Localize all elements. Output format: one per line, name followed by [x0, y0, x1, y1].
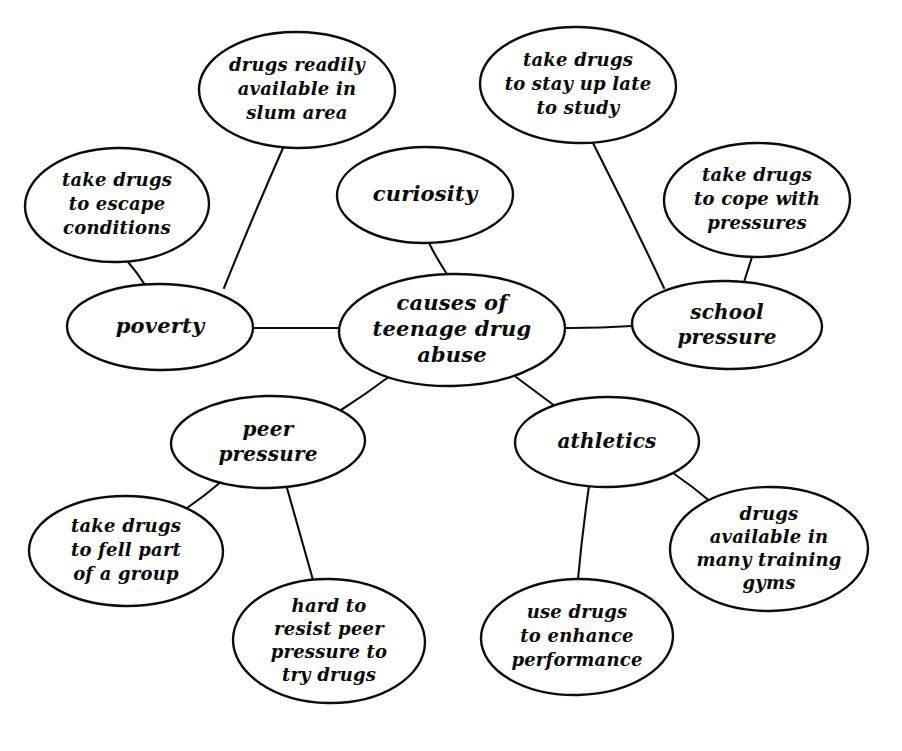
node-label-line: to escape [69, 193, 166, 214]
node-label-line: pressure to [271, 641, 388, 662]
node-label-line: slum area [245, 102, 347, 123]
node-label-line: drugs readily [229, 54, 366, 75]
node-label-line: causes of [397, 290, 512, 315]
node-label-line: to stay up late [505, 73, 652, 94]
node-label-line: conditions [63, 217, 171, 238]
node-label-curiosity: curiosity [373, 181, 479, 206]
node-drugs-available-in-many-training-gyms[interactable]: drugsavailable inmany traininggyms [670, 486, 869, 611]
node-label-school-pressure: schoolpressure [677, 299, 776, 348]
node-label-line: poverty [116, 313, 206, 338]
node-label-line: take drugs [71, 515, 181, 536]
node-label-line: resist peer [274, 618, 385, 639]
node-take-drugs-to-fell-part-of-a-group[interactable]: take drugsto fell partof a group [29, 495, 224, 606]
node-label-line: teenage drug [373, 316, 532, 341]
node-label-take-drugs-to-fell-part-of-a-group: take drugsto fell partof a group [71, 515, 182, 584]
node-label-line: of a group [73, 563, 179, 584]
node-label-line: to fell part [71, 539, 182, 560]
node-label-take-drugs-to-escape-conditions: take drugsto escapeconditions [62, 169, 172, 238]
node-label-athletics: athletics [557, 429, 656, 453]
node-label-take-drugs-to-cope-with-pressures: take drugsto cope withpressures [694, 164, 820, 233]
node-label-line: pressures [707, 212, 807, 233]
node-label-line: drugs [740, 503, 799, 524]
node-label-line: hard to [292, 595, 367, 616]
concept-map-diagram: causes ofteenage drugabusecuriositypover… [0, 0, 902, 751]
node-label-line: pressure [218, 441, 317, 465]
node-poverty[interactable]: poverty [67, 283, 254, 370]
node-label-line: gyms [742, 572, 795, 593]
node-label-line: many training [696, 549, 841, 570]
node-label-line: school [689, 299, 764, 323]
node-label-line: available in [710, 526, 829, 547]
node-athletics[interactable]: athletics [515, 396, 700, 487]
node-take-drugs-to-cope-with-pressures[interactable]: take drugsto cope withpressures [664, 142, 851, 257]
node-curiosity[interactable]: curiosity [337, 146, 514, 243]
node-label-line: try drugs [282, 664, 376, 685]
node-label-line: athletics [557, 429, 656, 453]
node-label-line: take drugs [62, 169, 172, 190]
node-label-line: performance [511, 649, 642, 670]
node-label-line: to study [537, 97, 621, 118]
node-label-line: curiosity [373, 181, 479, 206]
node-label-line: to enhance [520, 625, 633, 646]
node-label-line: use drugs [527, 601, 628, 622]
concept-map-canvas: causes ofteenage drugabusecuriositypover… [0, 0, 902, 751]
node-label-line: take drugs [523, 49, 633, 70]
node-label-drugs-readily-available-in-slum-area: drugs readilyavailable inslum area [229, 54, 366, 123]
node-label-line: available in [238, 78, 357, 99]
node-label-poverty: poverty [116, 313, 206, 338]
node-drugs-readily-available-in-slum-area[interactable]: drugs readilyavailable inslum area [199, 31, 396, 148]
node-label-line: take drugs [702, 164, 812, 185]
node-label-use-drugs-to-enhance-performance: use drugsto enhanceperformance [511, 601, 642, 670]
node-label-line: to cope with [694, 188, 820, 209]
node-label-line: pressure [677, 324, 776, 348]
node-label-line: abuse [417, 342, 487, 367]
node-label-line: peer [243, 416, 295, 440]
